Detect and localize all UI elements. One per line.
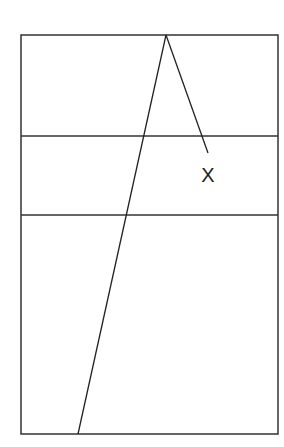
outer-rectangle	[21, 35, 278, 434]
long-diagonal-line	[78, 35, 166, 434]
diagram-canvas: X	[0, 0, 284, 447]
point-label-x: X	[201, 164, 214, 186]
